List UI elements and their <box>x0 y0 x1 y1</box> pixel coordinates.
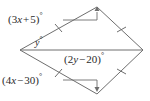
tick-mark-top-right <box>117 27 126 32</box>
side-top-right <box>97 7 143 50</box>
degree-symbol: ° <box>39 35 42 44</box>
constant: 30 <box>24 74 35 86</box>
geometry-figure: (3x+5)° (4x−30)° (2y−20)° y° <box>0 0 150 101</box>
label-y-angle: y° <box>35 36 43 48</box>
label-top-left-angle: (3x+5)° <box>8 12 43 25</box>
degree-symbol: ° <box>101 51 104 60</box>
label-center-angle: (2y−20)° <box>64 52 104 65</box>
leader-line-bottom <box>63 80 100 92</box>
degree-symbol: ° <box>39 11 42 20</box>
tick-mark-top-left <box>55 24 62 32</box>
label-bottom-left-angle: (4x−30)° <box>2 73 42 86</box>
constant: 20 <box>86 53 97 65</box>
degree-symbol: ° <box>39 72 42 81</box>
